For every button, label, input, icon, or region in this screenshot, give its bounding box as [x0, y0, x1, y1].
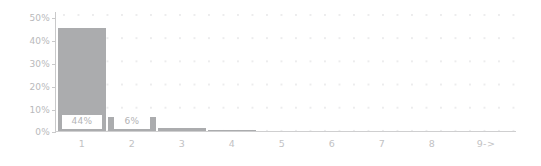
x-tick-label-6: 6: [329, 138, 335, 149]
x-axis-line: [55, 131, 516, 132]
x-tick-label-5: 5: [279, 138, 285, 149]
y-tick-label-50: 50%: [14, 14, 50, 23]
bar-chart: 50% 40% 30% 20% 10% 0% 44% 6% 1 2 3 4: [0, 0, 541, 166]
y-tick-label-20: 20%: [14, 83, 50, 92]
grid-dots: [56, 14, 515, 131]
x-tick-label-8: 8: [429, 138, 435, 149]
x-tick-label-2: 2: [129, 138, 135, 149]
y-tick-label-40: 40%: [14, 37, 50, 46]
x-tick-label-4: 4: [229, 138, 235, 149]
x-axis-labels: 1 2 3 4 5 6 7 8 9->: [56, 138, 515, 154]
y-axis-labels: 50% 40% 30% 20% 10% 0%: [8, 0, 50, 166]
bar-value-label-2: 6%: [114, 115, 150, 129]
y-tick-label-0: 0%: [14, 128, 50, 137]
y-tick-label-30: 30%: [14, 60, 50, 69]
x-tick-label-1: 1: [79, 138, 85, 149]
bar-value-label-1: 44%: [62, 115, 102, 129]
x-tick-label-7: 7: [379, 138, 385, 149]
plot-area: 44% 6%: [56, 14, 515, 131]
x-tick-label-3: 3: [179, 138, 185, 149]
y-tick-label-10: 10%: [14, 106, 50, 115]
y-tick-mark-0: [52, 132, 56, 133]
x-tick-label-9plus: 9->: [477, 138, 496, 149]
